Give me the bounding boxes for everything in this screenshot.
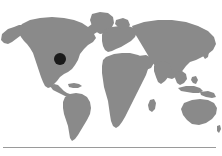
location-marker-icon[interactable] — [54, 53, 66, 65]
world-map-screenshot — [0, 0, 222, 156]
figure-caption — [3, 149, 216, 156]
world-map-graphic — [0, 0, 222, 145]
divider-line — [3, 147, 216, 148]
world-map-figure — [0, 0, 222, 145]
